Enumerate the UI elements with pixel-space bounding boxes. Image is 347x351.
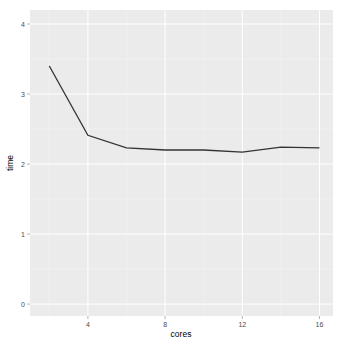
y-axis-title: time (5, 155, 15, 171)
y-tick-label: 1 (21, 231, 25, 238)
y-tick-label: 3 (21, 91, 25, 98)
y-tick-label: 4 (21, 21, 25, 28)
x-tick-label: 8 (163, 321, 167, 328)
x-tick-label: 4 (86, 321, 90, 328)
y-tick-label: 0 (21, 301, 25, 308)
line-chart: 01234 481216 cores time (0, 0, 347, 351)
plot-panel (30, 10, 333, 316)
x-axis-title: cores (171, 329, 192, 339)
x-tick-label: 16 (316, 321, 324, 328)
y-axis-ticks: 01234 (21, 21, 30, 308)
x-tick-label: 12 (238, 321, 246, 328)
y-tick-label: 2 (21, 161, 25, 168)
x-axis-ticks: 481216 (86, 316, 324, 328)
